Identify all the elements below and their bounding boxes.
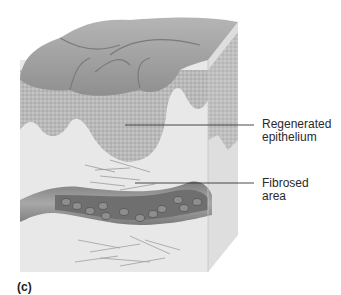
tissue-repair-diagram: Regenerated epithelium Fibrosed area (c) — [0, 0, 341, 295]
tissue-block-illustration — [0, 0, 341, 295]
panel-label: (c) — [17, 280, 32, 294]
label-regenerated-epithelium: Regenerated epithelium — [262, 118, 331, 144]
label-line-2: area — [262, 190, 309, 203]
label-line-2: epithelium — [262, 131, 331, 144]
label-fibrosed-area: Fibrosed area — [262, 177, 309, 203]
